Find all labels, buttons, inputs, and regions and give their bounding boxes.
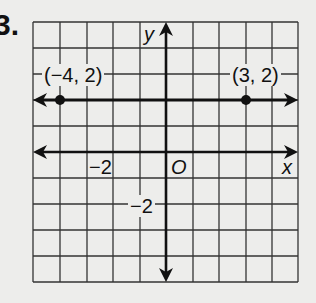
point-label-neg4-2: (−4, 2) (42, 64, 104, 86)
point-neg4-2 (55, 95, 65, 105)
x-axis-label: x (280, 156, 294, 178)
y-tick-label-neg2: −2 (128, 195, 155, 217)
x-tick-label-neg2: −2 (87, 156, 114, 178)
point-label-3-2: (3, 2) (230, 64, 281, 86)
point-3-2 (241, 95, 251, 105)
origin-label: O (169, 156, 189, 178)
y-axis-label: y (142, 23, 156, 45)
coordinate-graph (0, 0, 316, 303)
